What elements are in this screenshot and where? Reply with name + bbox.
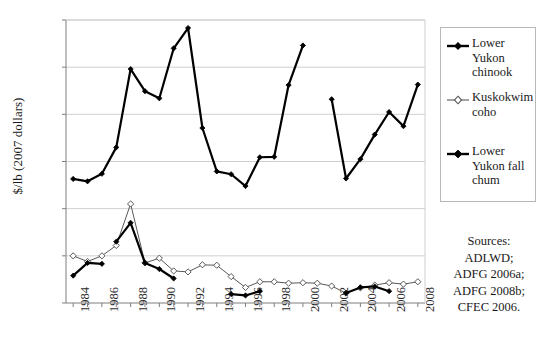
data-point-marker [329, 283, 335, 289]
data-point-marker [329, 97, 334, 102]
data-point-marker [71, 176, 76, 181]
legend-swatch-filled-diamond-icon-2 [446, 149, 470, 159]
data-point-marker [415, 279, 421, 285]
series-line [73, 28, 303, 186]
legend-item-chinook: Lower Yukon chinook [446, 36, 536, 80]
sources-line: ADFG 2008b; [438, 283, 540, 300]
data-point-marker [272, 154, 277, 159]
series-line [346, 286, 389, 293]
series-line [116, 223, 173, 279]
data-point-marker [229, 291, 234, 296]
data-point-marker [199, 262, 205, 268]
legend-swatch-open-diamond-icon [446, 95, 470, 105]
legend-item-coho: Kuskokwim coho [446, 90, 536, 119]
data-point-marker [70, 253, 76, 259]
series-line [73, 204, 418, 293]
data-point-marker [128, 201, 134, 207]
sources-line: Sources: [438, 233, 540, 250]
data-point-marker [400, 281, 406, 287]
data-point-marker [285, 280, 291, 286]
data-point-marker [243, 293, 248, 298]
data-point-marker [200, 125, 205, 130]
legend-item-chum: Lower Yukon fall chum [446, 144, 536, 188]
data-point-marker [415, 82, 420, 87]
legend: Lower Yukon chinook Kuskokwim coho Lower… [440, 27, 536, 202]
data-point-marker [99, 261, 104, 266]
legend-label-coho: Kuskokwim coho [472, 90, 536, 119]
sources-note: Sources:ADLWD;ADFG 2006a;ADFG 2008b;CFEC… [438, 233, 540, 316]
data-point-marker [257, 289, 262, 294]
data-point-marker [257, 279, 263, 285]
sources-line: CFEC 2006. [438, 299, 540, 316]
data-point-marker [271, 279, 277, 285]
data-point-marker [386, 280, 392, 286]
data-point-marker [300, 280, 306, 286]
sources-line: ADFG 2006a; [438, 266, 540, 283]
legend-label-chum: Lower Yukon fall chum [472, 144, 536, 188]
chart-figure: $/lb (2007 dollars) $0.00$1.00$2.00$3.00… [0, 0, 542, 353]
data-point-marker [185, 269, 191, 275]
legend-swatch-filled-diamond-icon [446, 41, 470, 51]
data-point-marker [314, 280, 320, 286]
legend-label-chinook: Lower Yukon chinook [472, 36, 536, 80]
data-point-marker [387, 289, 392, 294]
sources-line: ADLWD; [438, 250, 540, 267]
data-point-marker [214, 169, 219, 174]
